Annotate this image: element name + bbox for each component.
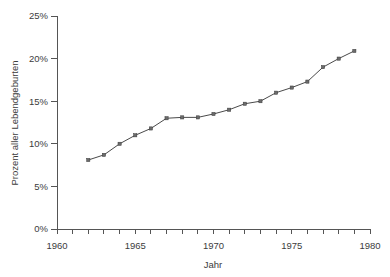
data-point-marker — [306, 80, 309, 83]
y-axis-tick-label: 25% — [29, 10, 49, 21]
data-point-marker — [134, 134, 137, 137]
x-axis-tick-label: 1965 — [125, 240, 146, 251]
data-point-marker — [353, 49, 356, 52]
y-axis-tick-label: 0% — [34, 223, 48, 234]
data-point-marker — [165, 117, 168, 120]
data-point-marker — [181, 116, 184, 119]
data-point-marker — [102, 153, 105, 156]
data-point-marker — [290, 86, 293, 89]
y-axis-tick-label: 15% — [29, 96, 49, 107]
x-axis-tick-label: 1980 — [359, 240, 380, 251]
y-axis-tick-label: 5% — [34, 181, 48, 192]
data-point-marker — [118, 142, 121, 145]
y-axis-tick-label: 20% — [29, 53, 49, 64]
data-point-marker — [212, 112, 215, 115]
chart-container: 0%5%10%15%20%25% 19601965197019751980 Pr… — [0, 0, 390, 277]
y-axis: 0%5%10%15%20%25% — [29, 10, 57, 234]
x-axis: 19601965197019751980 — [46, 229, 380, 251]
x-axis-tick-label: 1970 — [203, 240, 224, 251]
data-point-marker — [275, 91, 278, 94]
data-point-marker — [337, 57, 340, 60]
y-axis-title: Prozent aller Lebendgeburten — [9, 60, 20, 185]
data-series — [87, 49, 356, 161]
data-point-marker — [87, 158, 90, 161]
data-point-marker — [243, 102, 246, 105]
data-point-marker — [259, 100, 262, 103]
x-axis-title: Jahr — [204, 259, 222, 270]
x-axis-tick-label: 1960 — [46, 240, 67, 251]
series-line — [88, 51, 354, 160]
data-point-marker — [321, 66, 324, 69]
data-point-marker — [149, 127, 152, 130]
x-axis-tick-label: 1975 — [281, 240, 302, 251]
data-point-marker — [196, 116, 199, 119]
line-chart-plot: 0%5%10%15%20%25% 19601965197019751980 Pr… — [0, 0, 390, 277]
y-axis-tick-label: 10% — [29, 138, 49, 149]
data-point-marker — [228, 108, 231, 111]
